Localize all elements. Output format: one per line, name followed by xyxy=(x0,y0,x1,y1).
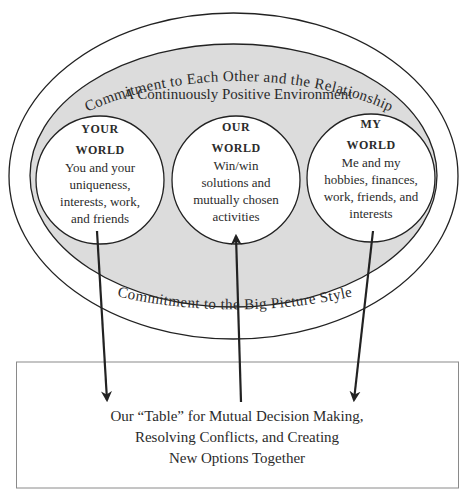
world-my: MY WORLD Me and my hobbies, finances, wo… xyxy=(307,114,435,242)
table-box-line-2: Resolving Conflicts, and Creating xyxy=(135,429,340,445)
relationship-diagram: Commitment to Each Other and the Relatio… xyxy=(0,0,471,502)
my-world-body-3: work, friends, and xyxy=(324,189,419,204)
our-world-body-4: activities xyxy=(213,209,260,224)
table-box-line-1: Our “Table” for Mutual Decision Making, xyxy=(110,408,363,424)
diagram-canvas: Commitment to Each Other and the Relatio… xyxy=(0,0,471,502)
your-world-body-2: uniqueness, xyxy=(69,177,130,192)
my-world-title-2: WORLD xyxy=(346,138,395,152)
your-world-title-1: YOUR xyxy=(81,122,118,136)
your-world-body-3: interests, work, xyxy=(60,194,140,209)
my-world-body-4: interests xyxy=(349,206,392,221)
your-world-body-4: and friends xyxy=(71,211,129,226)
your-world-title-2: WORLD xyxy=(75,143,124,157)
my-world-body-2: hobbies, finances, xyxy=(324,172,418,187)
my-world-body-1: Me and my xyxy=(341,155,401,170)
table-box xyxy=(17,362,459,488)
world-your: YOUR WORLD You and your uniqueness, inte… xyxy=(36,116,164,244)
environment-label: A Continuously Positive Environment xyxy=(124,86,354,102)
our-world-title-2: WORLD xyxy=(211,141,260,155)
my-world-title-1: MY xyxy=(361,117,382,131)
our-world-title-1: OUR xyxy=(222,120,250,134)
your-world-body-1: You and your xyxy=(65,160,136,175)
world-our: OUR WORLD Win/win solutions and mutually… xyxy=(172,116,300,244)
our-world-body-2: solutions and xyxy=(202,175,271,190)
our-world-body-1: Win/win xyxy=(214,158,259,173)
table-box-line-3: New Options Together xyxy=(169,450,305,466)
our-world-body-3: mutually chosen xyxy=(193,192,279,207)
